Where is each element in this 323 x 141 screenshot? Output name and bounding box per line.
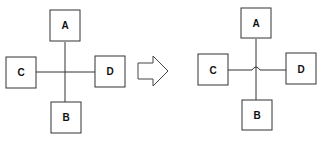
label-d: D: [297, 64, 304, 75]
label-a: A: [252, 18, 259, 29]
label-a: A: [61, 20, 68, 31]
label-c: C: [209, 65, 216, 76]
label-b: B: [62, 112, 69, 123]
label-d: D: [106, 66, 113, 77]
diagram-canvas: A C D B A C D B: [0, 0, 323, 141]
connector-c-d-with-jump: [228, 67, 286, 70]
label-c: C: [17, 67, 24, 78]
right-arrow-icon: [138, 56, 168, 86]
label-b: B: [253, 110, 260, 121]
